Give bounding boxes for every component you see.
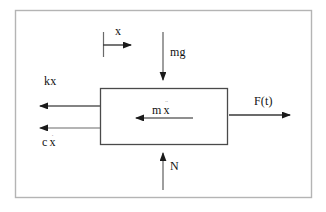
double-derivative-dot-icon: ¨ xyxy=(164,100,170,108)
damper-coefficient-symbol: c xyxy=(42,135,48,149)
applied-force-label: F(t) xyxy=(254,95,273,107)
mass-symbol: m xyxy=(152,103,162,117)
displacement-label: x xyxy=(115,25,121,37)
spring-force-label: kx xyxy=(44,75,56,87)
weight-label: mg xyxy=(170,46,186,58)
normal-force-label: N xyxy=(170,160,179,172)
inertia-force-label: m¨x xyxy=(152,104,170,116)
damper-force-label: c·x xyxy=(42,136,56,148)
diagram-canvas: x mg kx c·x m¨x N F(t) xyxy=(0,0,326,212)
damper-velocity-variable: ·x xyxy=(50,136,56,148)
derivative-dot-icon: · xyxy=(50,132,56,140)
acceleration-variable: ¨x xyxy=(164,104,170,116)
